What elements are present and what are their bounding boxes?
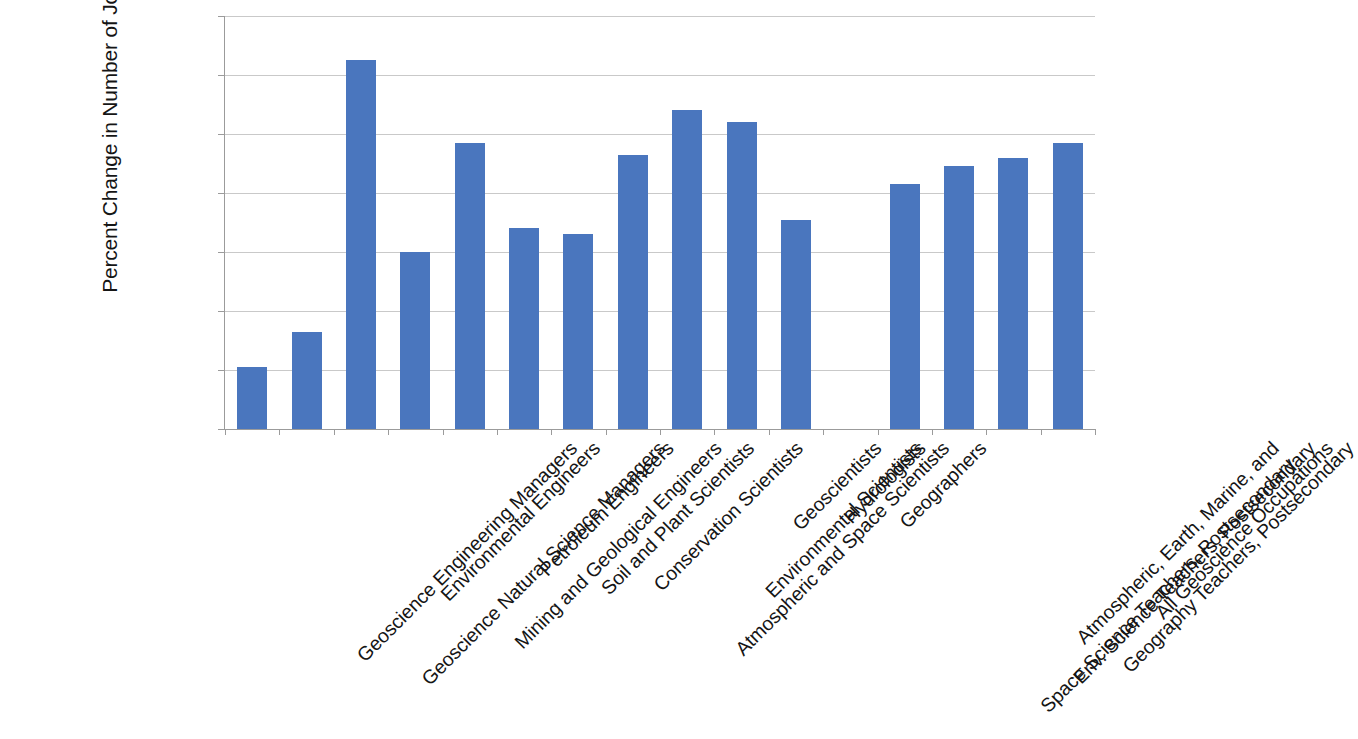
bar[interactable] <box>944 166 974 429</box>
y-axis-tick <box>218 311 225 312</box>
bar[interactable] <box>400 252 430 429</box>
bar[interactable] <box>237 367 267 429</box>
x-axis-tick <box>932 429 933 435</box>
bar[interactable] <box>998 158 1028 429</box>
x-axis-tick-labels: Geoscience Engineering ManagersGeoscienc… <box>225 437 1105 737</box>
x-axis-tick <box>714 429 715 435</box>
y-axis-tick <box>218 75 225 76</box>
x-axis-tick-label: Atmospheric, Earth, Marine, and Space Sc… <box>1019 437 1299 717</box>
y-axis-tick <box>218 134 225 135</box>
x-axis-tick <box>443 429 444 435</box>
x-axis-tick <box>823 429 824 435</box>
bar[interactable] <box>781 220 811 429</box>
bar[interactable] <box>346 60 376 429</box>
x-axis-tick <box>878 429 879 435</box>
x-axis-tick <box>225 429 226 435</box>
y-axis-tick <box>218 370 225 371</box>
x-axis-tick <box>1041 429 1042 435</box>
bars-series <box>225 16 1095 429</box>
y-axis-tick <box>218 16 225 17</box>
bar[interactable] <box>618 155 648 429</box>
y-axis-tick <box>218 252 225 253</box>
x-axis-tick <box>279 429 280 435</box>
y-axis-tick <box>218 429 225 430</box>
x-axis-tick <box>660 429 661 435</box>
x-axis-tick <box>334 429 335 435</box>
x-axis-tick <box>606 429 607 435</box>
x-axis-tick <box>769 429 770 435</box>
bar[interactable] <box>727 122 757 429</box>
x-axis-tick <box>551 429 552 435</box>
bar[interactable] <box>563 234 593 429</box>
x-axis-tick <box>986 429 987 435</box>
bar[interactable] <box>292 332 322 429</box>
bar[interactable] <box>509 228 539 429</box>
y-axis-tick <box>218 193 225 194</box>
y-axis-title: Percent Change in Number of Jobs <box>98 0 122 322</box>
x-axis-tick <box>497 429 498 435</box>
x-axis-tick <box>1095 429 1096 435</box>
bar[interactable] <box>672 110 702 429</box>
plot-area: 14%12%10%8%6%4%2%0% <box>225 16 1095 429</box>
x-axis-tick <box>388 429 389 435</box>
bar[interactable] <box>455 143 485 429</box>
bar[interactable] <box>890 184 920 429</box>
bar[interactable] <box>1053 143 1083 429</box>
